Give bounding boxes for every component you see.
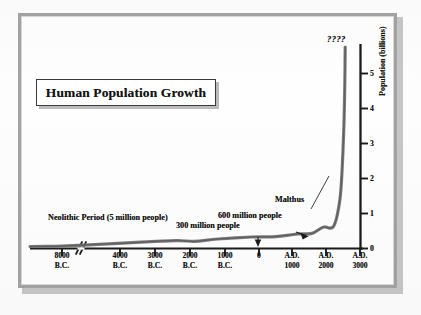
title-plaque: Human Population Growth	[36, 79, 216, 106]
page-title: Human Population Growth	[46, 85, 206, 101]
annotation-300-million: 300 million people	[176, 222, 240, 231]
x-tick-label-2000-bc: 2000 B.C.	[170, 251, 210, 272]
annotation-600-million: 600 million people	[218, 212, 282, 221]
x-tick-ad-3000-line1: A.D.	[340, 251, 380, 261]
y-tick-label-3: 3	[370, 139, 374, 148]
annotation-future-unknown: ????	[327, 35, 346, 44]
y-axis-title: Population (billions)	[378, 26, 387, 96]
x-tick-4000-bc-line1: 4000	[100, 251, 140, 261]
x-tick-3000-bc-line1: 3000	[135, 251, 175, 261]
y-tick-label-0: 0	[370, 244, 374, 253]
malthus-leader-line	[311, 176, 329, 209]
y-tick-label-5: 5	[370, 69, 374, 78]
annotation-malthus: Malthus	[275, 196, 304, 205]
population-growth-figure: Human Population Growth Neolithic Period…	[0, 0, 421, 315]
y-tick-label-2: 2	[370, 174, 374, 183]
annotation-neolithic: Neolithic Period (5 million people)	[48, 214, 168, 223]
y-tick-label-4: 4	[370, 104, 374, 113]
x-tick-label-8000-bc: 8000 B.C.	[42, 251, 82, 272]
annotation-neolithic-line1: Neolithic Period	[48, 213, 105, 222]
y-tick-label-1: 1	[370, 209, 374, 218]
x-tick-2000-bc-line1: 2000	[170, 251, 210, 261]
x-tick-8000-bc-line1: 8000	[42, 251, 82, 261]
x-tick-label-3000-bc: 3000 B.C.	[135, 251, 175, 272]
x-tick-4000-bc-line2: B.C.	[100, 261, 140, 271]
x-tick-2000-bc-line2: B.C.	[170, 261, 210, 271]
x-tick-label-ad-3000: A.D. 3000	[340, 251, 380, 272]
plot-area	[18, 13, 397, 288]
x-tick-1000-bc-line2: B.C.	[205, 261, 245, 271]
x-tick-8000-bc-line2: B.C.	[42, 261, 82, 271]
x-tick-ad-3000-line2: 3000	[340, 261, 380, 271]
annotation-neolithic-line2: (5 million people)	[107, 213, 168, 222]
x-tick-3000-bc-line2: B.C.	[135, 261, 175, 271]
x-tick-label-4000-bc: 4000 B.C.	[100, 251, 140, 272]
